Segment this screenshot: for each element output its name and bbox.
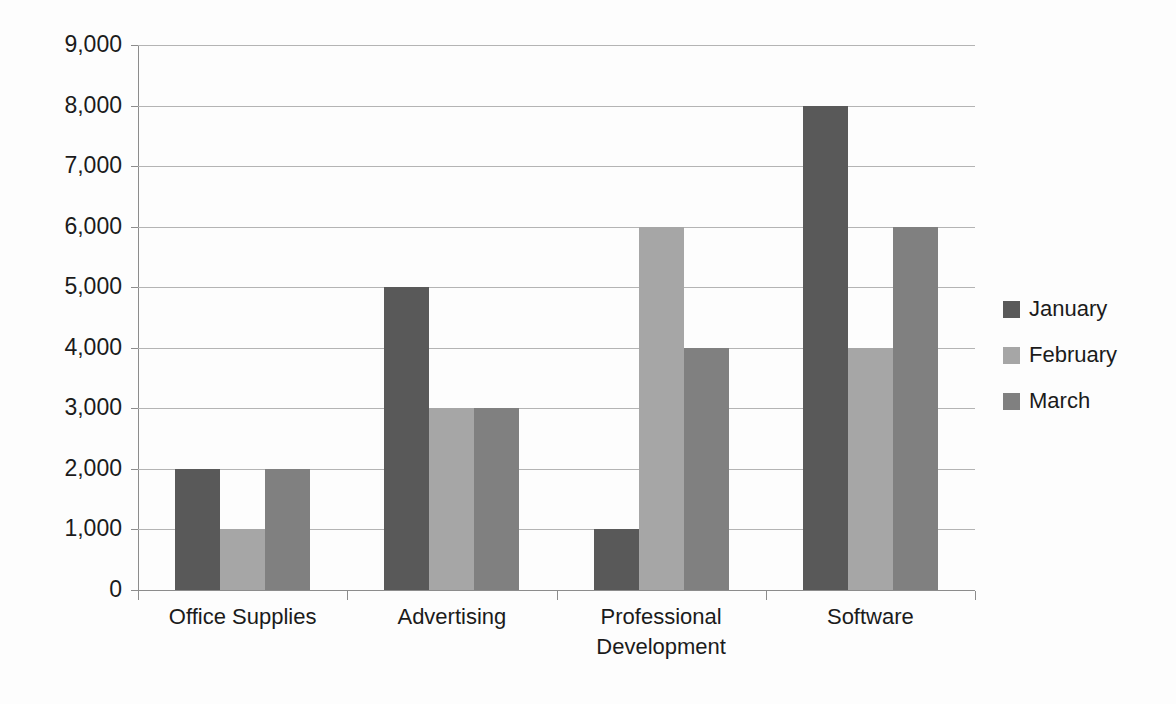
y-axis-tick-label: 6,000 [12, 215, 122, 238]
bar [848, 348, 893, 590]
y-axis-tick [131, 227, 138, 228]
bar-group [803, 45, 938, 590]
y-axis-tick [131, 287, 138, 288]
legend-item-march[interactable]: March [1003, 378, 1171, 424]
x-axis-category-label: Advertising [347, 602, 556, 632]
y-axis-tick-label: 0 [12, 578, 122, 601]
y-axis-tick-label: 7,000 [12, 154, 122, 177]
y-axis-tick [131, 469, 138, 470]
x-axis-category-label: Office Supplies [138, 602, 347, 632]
x-axis-category-label: ProfessionalDevelopment [557, 602, 766, 662]
x-axis-category-label: Software [766, 602, 975, 632]
x-axis-tick [347, 591, 348, 600]
bar-group [594, 45, 729, 590]
x-axis-tick [557, 591, 558, 600]
x-axis-category-label-line: Advertising [347, 602, 556, 632]
chart-legend: JanuaryFebruaryMarch [1003, 286, 1171, 424]
bar [684, 348, 729, 590]
x-axis-tick [975, 591, 976, 600]
x-axis-category-label-line: Development [557, 632, 766, 662]
y-axis-tick [131, 348, 138, 349]
legend-item-label: January [1029, 298, 1107, 320]
y-axis-tick [131, 590, 138, 591]
bar [220, 529, 265, 590]
y-axis-labels: 9,0008,0007,0006,0005,0004,0003,0002,000… [0, 0, 122, 704]
y-axis-tick-label: 8,000 [12, 94, 122, 117]
bar-group [384, 45, 519, 590]
x-axis-category-label-line: Office Supplies [138, 602, 347, 632]
bar-chart: 9,0008,0007,0006,0005,0004,0003,0002,000… [0, 0, 1176, 704]
y-axis-tick [131, 45, 138, 46]
legend-item-label: February [1029, 344, 1117, 366]
bar [639, 227, 684, 590]
legend-item-label: March [1029, 390, 1090, 412]
y-axis-tick [131, 166, 138, 167]
legend-swatch-icon [1003, 301, 1020, 318]
x-axis-category-label-line: Software [766, 602, 975, 632]
bar [594, 529, 639, 590]
y-axis-tick-label: 5,000 [12, 275, 122, 298]
y-axis-tick-label: 2,000 [12, 457, 122, 480]
y-axis-tick [131, 408, 138, 409]
y-axis-tick [131, 106, 138, 107]
legend-item-february[interactable]: February [1003, 332, 1171, 378]
x-axis-tick [138, 591, 139, 600]
bar [384, 287, 429, 590]
bar-group [175, 45, 310, 590]
y-axis-tick-label: 1,000 [12, 517, 122, 540]
x-axis-tick [766, 591, 767, 600]
y-axis-tick-label: 4,000 [12, 336, 122, 359]
bar [429, 408, 474, 590]
plot-area [138, 45, 975, 590]
y-axis-tick-label: 3,000 [12, 396, 122, 419]
bar [803, 106, 848, 590]
bar [893, 227, 938, 590]
x-axis-category-label-line: Professional [557, 602, 766, 632]
legend-swatch-icon [1003, 347, 1020, 364]
bar [175, 469, 220, 590]
legend-swatch-icon [1003, 393, 1020, 410]
y-axis-tick-label: 9,000 [12, 33, 122, 56]
bar [265, 469, 310, 590]
bar [474, 408, 519, 590]
legend-item-january[interactable]: January [1003, 286, 1171, 332]
y-axis-tick [131, 529, 138, 530]
